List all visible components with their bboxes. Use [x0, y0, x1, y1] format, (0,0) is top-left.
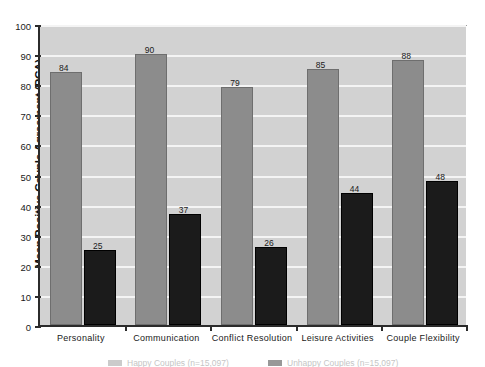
legend: Happy Couples (n=15,097)Unhappy Couples … — [0, 358, 485, 367]
x-axis-tick — [210, 325, 212, 331]
x-axis-tick — [125, 325, 127, 331]
bar-value-label: 84 — [59, 63, 68, 73]
x-axis-category-label: Conflict Resolution — [212, 333, 293, 343]
bar — [392, 60, 424, 325]
y-axis-tick-label: 30 — [20, 231, 31, 242]
x-axis-tick — [381, 325, 383, 331]
y-axis-tick-label: 20 — [20, 261, 31, 272]
bar-value-label: 90 — [145, 45, 154, 55]
x-axis-category-label: Leisure Activities — [301, 333, 373, 343]
y-axis-tick-label: 10 — [20, 291, 31, 302]
bar — [341, 193, 373, 325]
bar-value-label: 48 — [435, 172, 444, 182]
bar-chart: Mean Positive Couple Agreement (PCA) 010… — [0, 0, 485, 367]
y-axis-tick — [35, 55, 41, 57]
plot-area: 0102030405060708090100 — [38, 26, 466, 327]
y-axis-tick-label: 80 — [20, 81, 31, 92]
y-axis-tick — [35, 326, 41, 328]
bar-value-label: 37 — [179, 205, 188, 215]
y-axis-tick — [35, 85, 41, 87]
y-axis-tick — [35, 25, 41, 27]
y-axis-tick-label: 100 — [15, 21, 31, 32]
legend-label: Happy Couples (n=15,097) — [127, 358, 229, 367]
x-axis-category-label: Communication — [133, 333, 199, 343]
bar-value-label: 26 — [264, 238, 273, 248]
y-axis-tick-label: 70 — [20, 111, 31, 122]
y-axis-tick — [35, 145, 41, 147]
bar — [50, 72, 82, 325]
y-axis-tick-label: 40 — [20, 201, 31, 212]
y-axis-tick — [35, 176, 41, 178]
bar-value-label: 25 — [93, 241, 102, 251]
y-axis-tick — [35, 266, 41, 268]
y-axis-tick-label: 60 — [20, 141, 31, 152]
bar — [307, 69, 339, 325]
bar — [169, 214, 201, 325]
x-axis-tick — [466, 325, 468, 331]
y-axis-tick-label: 0 — [26, 322, 31, 333]
legend-swatch — [268, 360, 282, 366]
bar — [221, 87, 253, 325]
y-axis-tick — [35, 115, 41, 117]
y-axis-tick — [35, 236, 41, 238]
bar-value-label: 85 — [316, 60, 325, 70]
x-axis-tick — [296, 325, 298, 331]
y-axis-tick-label: 90 — [20, 51, 31, 62]
y-axis-tick — [35, 296, 41, 298]
y-axis-tick-label: 50 — [20, 171, 31, 182]
legend-label: Unhappy Couples (n=15,097) — [287, 358, 398, 367]
x-axis-category-label: Couple Flexibility — [386, 333, 459, 343]
bar-value-label: 79 — [230, 78, 239, 88]
bar — [84, 250, 116, 325]
x-axis-category-label: Personality — [57, 333, 105, 343]
bar-value-label: 44 — [350, 184, 359, 194]
bar — [135, 54, 167, 325]
legend-swatch — [108, 360, 122, 366]
bar — [426, 181, 458, 325]
bar-value-label: 88 — [401, 51, 410, 61]
gridline — [40, 25, 466, 27]
bar — [255, 247, 287, 325]
y-axis-tick — [35, 206, 41, 208]
